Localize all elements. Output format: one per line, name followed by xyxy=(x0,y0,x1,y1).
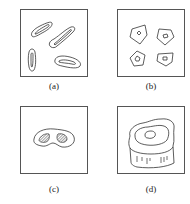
polygon-2 xyxy=(157,29,174,45)
side-tick-marks xyxy=(137,156,167,164)
particle-3 xyxy=(28,49,35,71)
polygon-4 xyxy=(157,53,173,66)
panel-c-label: (c) xyxy=(20,184,88,194)
panel-d xyxy=(117,106,185,174)
panel-a-drawing xyxy=(20,9,88,77)
panel-b-drawing xyxy=(117,9,185,77)
particle-1 xyxy=(31,22,52,37)
panel-a-label: (a) xyxy=(20,81,88,91)
panel-d-drawing xyxy=(117,106,185,174)
hatched-region-left xyxy=(39,134,49,143)
particle-4 xyxy=(55,56,81,68)
polygon-1 xyxy=(130,25,147,44)
hatched-region-right xyxy=(57,134,67,143)
panel-c-drawing xyxy=(20,106,88,174)
panel-d-label: (d) xyxy=(117,184,185,194)
particle-2 xyxy=(49,27,74,48)
panel-c xyxy=(20,106,88,174)
polygon-3 xyxy=(130,51,145,66)
panel-b-label: (b) xyxy=(117,81,185,91)
top-contour xyxy=(135,125,169,145)
panel-b xyxy=(117,9,185,77)
panel-a xyxy=(20,9,88,77)
